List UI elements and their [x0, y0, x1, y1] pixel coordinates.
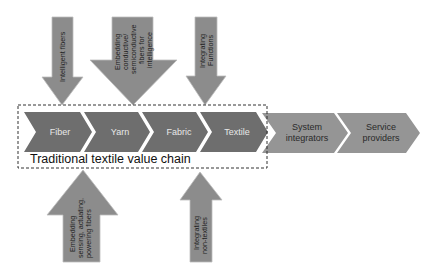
- stage-label: Fiber: [50, 127, 71, 137]
- arrow-label-line-5: intelligence: [145, 32, 154, 68]
- stage-label: Yarn: [111, 127, 129, 137]
- stage-label: Textile: [224, 127, 250, 137]
- external-stages: System integrators Service providers: [262, 113, 420, 153]
- stage-label-line-1: Service: [366, 122, 396, 132]
- arrow-label-line-2: Functions: [206, 34, 215, 66]
- stage-label: Fabric: [166, 127, 192, 137]
- stage-yarn: Yarn: [84, 112, 150, 152]
- arrow-label: Intelligent fibers: [58, 31, 67, 82]
- stage-fabric: Fabric: [142, 112, 208, 152]
- top-arrow-integrating-functions: Integrating Functions: [186, 17, 226, 105]
- stage-service-providers: Service providers: [337, 113, 420, 153]
- traditional-chain-title: Traditional textile value chain: [30, 152, 191, 166]
- stage-label-line-1: System: [292, 122, 322, 132]
- value-chain-stages: Fiber Yarn Fabric Textile: [24, 112, 268, 152]
- stage-fiber: Fiber: [24, 112, 92, 152]
- stage-label-line-2: providers: [362, 133, 400, 143]
- top-arrow-intelligent-fibers: Intelligent fibers: [42, 17, 83, 105]
- stage-system-integrators: System integrators: [262, 113, 348, 153]
- bottom-arrow-embedding-sensing: Embedding sensing, actuating, powering f…: [47, 170, 118, 262]
- textile-value-chain-diagram: Intelligent fibers Embedding conductive/…: [0, 0, 432, 277]
- stage-textile: Textile: [200, 112, 268, 152]
- bottom-arrow-integrating-non-textiles: Integrating non-textiles: [180, 172, 222, 262]
- top-arrow-embedding-conductive: Embedding conductive/ semiconductive fib…: [90, 17, 177, 105]
- arrow-label-line-3: powering fibers: [84, 209, 93, 258]
- arrow-label-line-2: non-textiles: [200, 217, 209, 254]
- stage-label-line-2: integrators: [286, 133, 329, 143]
